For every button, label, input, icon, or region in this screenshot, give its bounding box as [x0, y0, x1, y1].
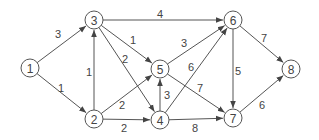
node-label: 1 [27, 62, 34, 76]
edge-weight-label: 2 [119, 99, 125, 111]
node-3: 3 [85, 11, 103, 29]
edge-weight-label: 6 [188, 61, 194, 73]
edge-1-3 [37, 26, 86, 63]
node-label: 6 [230, 14, 237, 28]
edge-weight-label: 1 [130, 34, 136, 46]
node-label: 7 [230, 112, 237, 126]
edge-weight-label: 6 [259, 99, 265, 111]
edge-weight-label: 8 [192, 122, 198, 134]
network-graph: 3111242236378576 12345678 [0, 0, 319, 140]
edge-2-4 [103, 119, 150, 120]
node-5: 5 [151, 60, 169, 78]
node-7: 7 [224, 109, 242, 127]
node-label: 3 [91, 14, 98, 28]
edge-weight-label: 3 [164, 89, 170, 101]
node-2: 2 [85, 110, 103, 128]
edge-4-6 [165, 28, 227, 113]
edge-2-5 [101, 75, 152, 114]
edge-5-6 [167, 26, 224, 64]
node-1: 1 [21, 59, 39, 77]
edge-weight-label: 3 [55, 28, 61, 40]
edge-weight-label: 3 [181, 37, 187, 49]
edge-weight-label: 7 [261, 32, 267, 44]
nodes-layer: 12345678 [21, 11, 300, 129]
edge-weight-label: 4 [157, 8, 163, 20]
node-8: 8 [282, 60, 300, 78]
edge-weight-label: 1 [58, 82, 64, 94]
edge-weight-label: 1 [86, 66, 92, 78]
edge-weight-label: 5 [235, 65, 241, 77]
edge-weight-label: 7 [197, 82, 203, 94]
node-label: 4 [157, 114, 164, 128]
edge-weight-label: 2 [122, 53, 128, 65]
node-label: 8 [288, 63, 295, 77]
node-4: 4 [151, 111, 169, 129]
edge-4-7 [169, 118, 223, 119]
edge-weight-label: 2 [121, 122, 127, 134]
node-6: 6 [224, 11, 242, 29]
node-label: 2 [91, 113, 98, 127]
edge-3-4 [99, 28, 155, 112]
node-label: 5 [157, 63, 164, 77]
